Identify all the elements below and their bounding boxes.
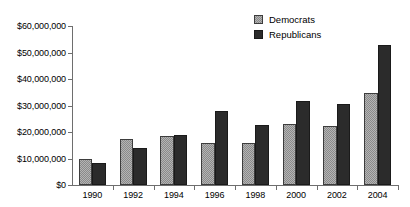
legend-label-republicans: Republicans: [269, 30, 321, 40]
bar-group: [323, 26, 350, 185]
bar-republicans: [337, 104, 351, 185]
y-axis-tick: [68, 185, 72, 186]
bar-democrats: [160, 136, 174, 185]
y-axis-tick: [68, 106, 72, 107]
bar-democrats: [242, 143, 256, 185]
y-axis-tick: [68, 132, 72, 133]
bar-democrats: [120, 139, 134, 185]
bar-republicans: [378, 45, 392, 185]
y-axis-label: $20,000,000: [17, 128, 66, 137]
y-axis-tick: [68, 53, 72, 54]
bar-democrats: [283, 124, 297, 185]
bar-group: [242, 26, 269, 185]
bar-democrats: [323, 126, 337, 185]
y-axis-label: $0: [56, 181, 66, 190]
y-axis-tick: [68, 159, 72, 160]
y-axis-label: $10,000,000: [17, 154, 66, 163]
chart-legend: Democrats Republicans: [254, 14, 321, 44]
y-axis-label: $60,000,000: [17, 22, 66, 31]
y-axis-tick: [68, 26, 72, 27]
bar-group: [201, 26, 228, 185]
bar-group: [283, 26, 310, 185]
plot-area: $0$10,000,000$20,000,000$30,000,000$40,0…: [72, 26, 398, 185]
x-axis-label: 2002: [317, 190, 358, 200]
x-axis-label: 1996: [194, 190, 235, 200]
legend-label-democrats: Democrats: [269, 15, 315, 25]
y-axis-label: $30,000,000: [17, 101, 66, 110]
bar-democrats: [201, 143, 215, 185]
x-axis-label: 1992: [113, 190, 154, 200]
legend-swatch-republicans: [254, 30, 263, 39]
legend-item-republicans: Republicans: [254, 29, 321, 40]
bar-republicans: [255, 125, 269, 185]
y-axis-tick: [68, 79, 72, 80]
x-axis-label: 1990: [72, 190, 113, 200]
y-axis-label: $50,000,000: [17, 48, 66, 57]
x-axis-label: 1994: [154, 190, 195, 200]
bar-group: [160, 26, 187, 185]
x-axis-label: 2000: [276, 190, 317, 200]
bar-democrats: [79, 159, 93, 186]
bar-group: [79, 26, 106, 185]
bar-republicans: [215, 111, 229, 185]
bar-chart: $0$10,000,000$20,000,000$30,000,000$40,0…: [0, 0, 410, 207]
bar-republicans: [92, 163, 106, 185]
legend-item-democrats: Democrats: [254, 14, 321, 25]
bar-republicans: [174, 135, 188, 185]
bar-group: [364, 26, 391, 185]
bar-republicans: [133, 148, 147, 185]
legend-swatch-democrats: [254, 15, 263, 24]
bar-democrats: [364, 93, 378, 185]
x-axis-label: 2004: [357, 190, 398, 200]
bar-republicans: [296, 101, 310, 185]
x-axis-tick: [398, 185, 399, 190]
y-axis-label: $40,000,000: [17, 75, 66, 84]
bar-group: [120, 26, 147, 185]
x-axis-label: 1998: [235, 190, 276, 200]
